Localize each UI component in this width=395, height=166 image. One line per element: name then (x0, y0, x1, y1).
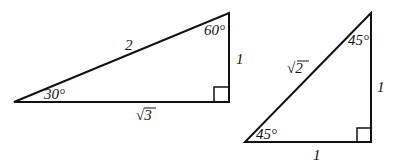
hypotenuse-label: √2 (287, 60, 303, 76)
angle-45-bottom-label: 45° (256, 126, 277, 142)
triangle-30-60-90: 30° 60° 2 1 √3 (14, 13, 244, 123)
vertical-leg-label: 1 (236, 51, 244, 67)
right-angle-marker (357, 128, 371, 142)
angle-45-top-label: 45° (348, 32, 369, 48)
triangle-45-45-90: 45° 45° √2 1 1 (245, 13, 385, 163)
angle-30-label: 30° (43, 86, 65, 102)
special-triangles-diagram: 30° 60° 2 1 √3 45° 45° √2 1 1 (0, 0, 395, 166)
horizontal-leg-label: 1 (313, 147, 321, 163)
hypotenuse-label: 2 (125, 37, 133, 53)
right-angle-marker (214, 87, 229, 102)
vertical-leg-label: 1 (377, 79, 385, 95)
angle-60-label: 60° (204, 22, 225, 38)
horizontal-leg-label: √3 (136, 107, 152, 123)
